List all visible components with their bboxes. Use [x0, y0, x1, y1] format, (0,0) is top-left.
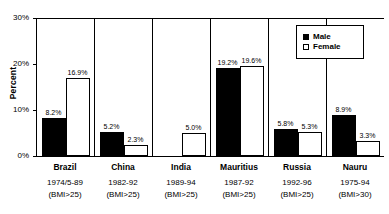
x-label-bmi-criterion: (BMI>30) — [326, 190, 384, 200]
y-tick-label-30: 30% — [13, 14, 29, 22]
panel-china: 5.2%2.3% — [95, 18, 153, 156]
bar-value-label: 5.8% — [278, 120, 294, 127]
x-label-country: Brazil — [36, 162, 94, 172]
bar-group: 5.2%2.3% — [95, 18, 152, 156]
bar-group: 5.0% — [153, 18, 210, 156]
bar-value-label: 8.9% — [336, 106, 352, 113]
bar-value-label: 19.6% — [242, 57, 262, 64]
x-label-country: China — [94, 162, 152, 172]
panel-india: 5.0% — [153, 18, 211, 156]
x-label-years: 1992-96 — [268, 178, 326, 188]
y-axis-ticks: 30% 20% 10% 0% — [0, 0, 33, 214]
legend-swatch-male-icon — [303, 34, 309, 40]
legend-label-male: Male — [313, 33, 331, 41]
bar-female: 3.3% — [356, 141, 380, 156]
x-label-country: Nauru — [326, 162, 384, 172]
bar-slot: 5.2% — [100, 18, 124, 156]
bar-slot: 16.9% — [66, 18, 90, 156]
bar-value-label: 8.2% — [46, 109, 62, 116]
bar-value-label: 2.3% — [128, 136, 144, 143]
bar-female: 16.9% — [66, 78, 90, 156]
legend-swatch-female-icon — [303, 44, 309, 50]
x-label-years: 1989-94 — [152, 178, 210, 188]
x-label-nauru: Nauru1975-94(BMI>30) — [326, 160, 384, 212]
panel-brazil: 8.2%16.9% — [37, 18, 95, 156]
chart-legend: Male Female — [296, 25, 364, 59]
bar-female: 5.0% — [182, 133, 206, 156]
bar-value-label: 16.9% — [68, 69, 88, 76]
x-label-years: 1975-94 — [326, 178, 384, 188]
bar-slot — [158, 18, 182, 156]
x-label-bmi-criterion: (BMI>25) — [36, 190, 94, 200]
x-label-country: Russia — [268, 162, 326, 172]
y-tick-label-0: 0% — [17, 152, 29, 160]
bar-slot: 19.6% — [240, 18, 264, 156]
bar-slot: 5.8% — [274, 18, 298, 156]
x-label-bmi-criterion: (BMI>25) — [210, 190, 268, 200]
bar-value-label: 5.3% — [302, 123, 318, 130]
x-label-china: China1982-92(BMI>25) — [94, 160, 152, 212]
x-axis-labels: Brazil1974/5-89(BMI>25)China1982-92(BMI>… — [36, 160, 384, 212]
bar-female: 19.6% — [240, 66, 264, 156]
legend-label-female: Female — [313, 43, 341, 51]
x-label-bmi-criterion: (BMI>25) — [268, 190, 326, 200]
x-label-bmi-criterion: (BMI>25) — [94, 190, 152, 200]
bar-male: 8.9% — [332, 115, 356, 156]
bar-male: 8.2% — [42, 118, 66, 156]
bar-female: 5.3% — [298, 132, 322, 156]
bar-male: 19.2% — [216, 68, 240, 156]
y-tick-label-20: 20% — [13, 60, 29, 68]
bar-value-label: 19.2% — [218, 59, 238, 66]
bar-value-label: 5.0% — [186, 124, 202, 131]
bar-value-label: 5.2% — [104, 123, 120, 130]
x-label-russia: Russia1992-96(BMI>25) — [268, 160, 326, 212]
legend-item-male: Male — [303, 33, 357, 41]
legend-item-female: Female — [303, 43, 357, 51]
x-label-years: 1974/5-89 — [36, 178, 94, 188]
y-tick-label-10: 10% — [13, 106, 29, 114]
x-label-bmi-criterion: (BMI>25) — [152, 190, 210, 200]
bar-slot: 8.2% — [42, 18, 66, 156]
x-label-country: India — [152, 162, 210, 172]
bar-male: 5.8% — [274, 129, 298, 156]
bar-chart: Percent 30% 20% 10% 0% 8.2%16.9%5.2%2.3%… — [0, 0, 389, 214]
x-label-country: Mauritius — [210, 162, 268, 172]
x-label-mauritius: Mauritius1987-92(BMI>25) — [210, 160, 268, 212]
bar-group: 19.2%19.6% — [211, 18, 268, 156]
bar-slot: 5.0% — [182, 18, 206, 156]
panel-mauritius: 19.2%19.6% — [211, 18, 269, 156]
bar-female: 2.3% — [124, 145, 148, 156]
bar-group: 8.2%16.9% — [37, 18, 94, 156]
x-label-years: 1982-92 — [94, 178, 152, 188]
bar-value-label: 3.3% — [360, 132, 376, 139]
x-label-india: India1989-94(BMI>25) — [152, 160, 210, 212]
bar-slot: 19.2% — [216, 18, 240, 156]
x-label-brazil: Brazil1974/5-89(BMI>25) — [36, 160, 94, 212]
bar-slot: 2.3% — [124, 18, 148, 156]
x-label-years: 1987-92 — [210, 178, 268, 188]
bar-male: 5.2% — [100, 132, 124, 156]
